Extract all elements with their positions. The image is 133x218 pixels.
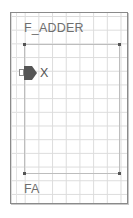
input-port-arrow-icon bbox=[24, 66, 37, 80]
corner-handle-top-right[interactable] bbox=[118, 43, 121, 46]
grid-line bbox=[16, 13, 17, 203]
instance-label[interactable]: FA bbox=[24, 182, 39, 196]
corner-handle-bottom-left[interactable] bbox=[23, 172, 26, 175]
symbol-body-right-edge bbox=[119, 44, 120, 174]
symbol-body-left-edge bbox=[24, 44, 25, 174]
symbol-title[interactable]: F_ADDER bbox=[24, 21, 84, 35]
symbol-body-bottom-edge bbox=[24, 173, 120, 174]
corner-handle-top-left[interactable] bbox=[23, 43, 26, 46]
symbol-editor-canvas[interactable] bbox=[10, 12, 128, 204]
corner-handle-bottom-right[interactable] bbox=[118, 172, 121, 175]
port-label-x[interactable]: X bbox=[40, 66, 48, 80]
port-x[interactable] bbox=[19, 66, 39, 80]
symbol-body-top-edge bbox=[24, 44, 120, 45]
